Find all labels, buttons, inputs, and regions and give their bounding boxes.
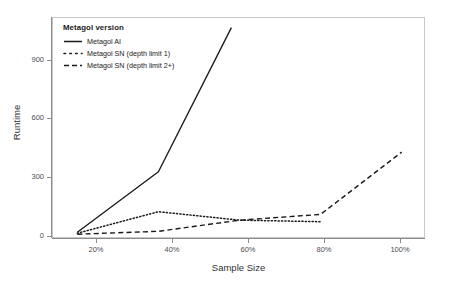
x-tick-mark-80: [324, 239, 325, 243]
x-tick-mark-20: [96, 239, 97, 243]
y-axis-title: Runtime: [11, 78, 22, 168]
chart-figure: Metagol version Metagol AI Metagol SN (d…: [0, 0, 449, 286]
y-axis-line: [51, 17, 52, 238]
x-tick-label-60: 60%: [228, 246, 268, 254]
legend-key-dashed-icon: [63, 60, 83, 71]
legend-label-metagol-sn-depth-2plus: Metagol SN (depth limit 2+): [87, 61, 174, 70]
x-axis-title: Sample Size: [52, 262, 425, 273]
legend-item-metagol-ai[interactable]: Metagol AI: [63, 36, 174, 47]
x-tick-label-20: 20%: [76, 246, 116, 254]
x-tick-mark-100: [400, 239, 401, 243]
y-tick-label-600: 600: [20, 114, 44, 122]
y-tick-label-300: 300: [20, 173, 44, 181]
legend-key-dotted-icon: [63, 48, 83, 59]
x-tick-label-100: 100%: [380, 246, 420, 254]
legend-item-metagol-sn-depth-2plus[interactable]: Metagol SN (depth limit 2+): [63, 60, 174, 71]
plot-panel: Metagol version Metagol AI Metagol SN (d…: [52, 17, 425, 238]
series-line-metagol-sn-depth-1: [77, 212, 320, 234]
x-tick-mark-60: [248, 239, 249, 243]
legend-key-solid-icon: [63, 36, 83, 47]
y-tick-mark-0: [47, 236, 51, 237]
x-tick-mark-40: [172, 239, 173, 243]
x-tick-label-80: 80%: [304, 246, 344, 254]
legend-label-metagol-sn-depth-1: Metagol SN (depth limit 1): [87, 49, 170, 58]
y-tick-mark-900: [47, 60, 51, 61]
y-tick-label-900: 900: [20, 56, 44, 64]
x-axis-line: [52, 238, 425, 239]
y-tick-label-0: 0: [20, 232, 44, 240]
legend-label-metagol-ai: Metagol AI: [87, 37, 121, 46]
y-tick-mark-600: [47, 118, 51, 119]
legend-item-metagol-sn-depth-1[interactable]: Metagol SN (depth limit 1): [63, 48, 174, 59]
legend: Metagol version Metagol AI Metagol SN (d…: [63, 23, 174, 72]
y-tick-mark-300: [47, 177, 51, 178]
legend-title: Metagol version: [63, 23, 174, 32]
series-line-metagol-sn-depth-2plus: [77, 152, 401, 234]
x-tick-label-40: 40%: [152, 246, 192, 254]
